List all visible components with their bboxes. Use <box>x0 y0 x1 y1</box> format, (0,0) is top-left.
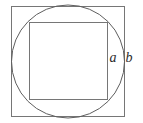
geometry-figure: a b <box>0 0 143 123</box>
figure-canvas: a b <box>0 0 143 123</box>
label-a: a <box>110 50 117 65</box>
label-b: b <box>126 50 133 65</box>
figure-background <box>0 0 143 123</box>
